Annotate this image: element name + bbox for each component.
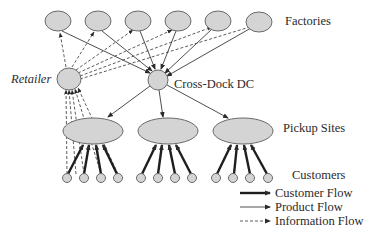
legend-product-flow-label: Product Flow (275, 200, 343, 214)
customer-node (212, 174, 221, 183)
customer-node (63, 174, 72, 183)
factory-node (205, 11, 231, 31)
customer-node (246, 174, 255, 183)
retailer-node (57, 68, 81, 90)
pickup-sites-label: Pickup Sites (283, 121, 345, 135)
customer-node (171, 174, 180, 183)
factory-node (125, 11, 151, 31)
customer-node (154, 174, 163, 183)
customers (63, 174, 273, 183)
cross-dock-label: Cross-Dock DC (174, 77, 254, 91)
legend: Customer Flow Product Flow Information F… (240, 186, 364, 228)
pickup-site-node (213, 118, 273, 144)
pickup-site-node (138, 118, 198, 144)
factory-node (165, 11, 191, 31)
pickup-site-node (63, 118, 123, 144)
customer-node (97, 174, 106, 183)
customer-node (188, 174, 197, 183)
factory-node (246, 12, 272, 32)
customer-node (264, 174, 273, 183)
factory-node (85, 11, 111, 31)
supply-chain-diagram: Factories Retailer Cross-Dock DC Pickup … (0, 0, 379, 236)
retailer-label: Retailer (10, 72, 51, 86)
customer-node (229, 174, 238, 183)
pickup-sites (63, 118, 273, 144)
customer-flows (68, 145, 267, 174)
customer-node (80, 174, 89, 183)
factory-node (45, 11, 71, 31)
legend-information-flow-label: Information Flow (275, 214, 364, 228)
customer-node (137, 174, 146, 183)
cross-dock-node (148, 70, 168, 90)
legend-customer-flow-label: Customer Flow (275, 186, 352, 200)
customer-node (114, 174, 123, 183)
customers-label: Customers (292, 168, 346, 182)
factories-label: Factories (285, 14, 331, 28)
factories (45, 11, 272, 32)
product-flows-factory-to-dc (62, 28, 251, 76)
